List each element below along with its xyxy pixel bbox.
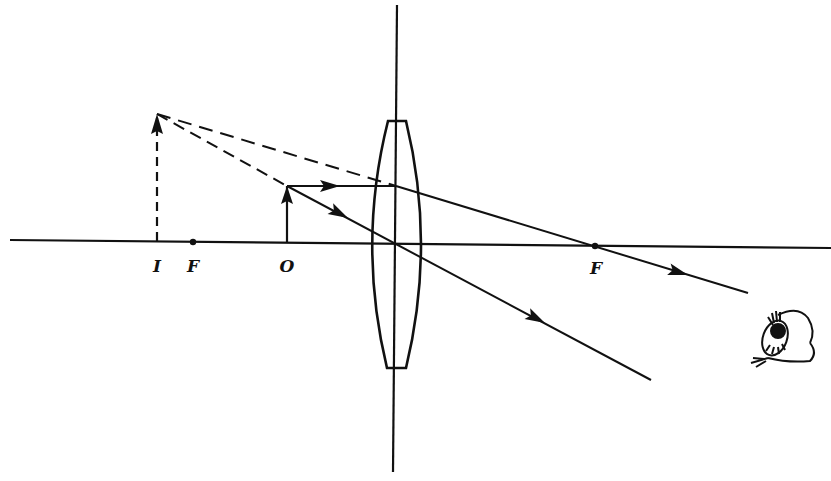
eye-icon [751, 311, 814, 367]
virtual-ray-extension-center [157, 114, 287, 186]
label-object: O [280, 258, 295, 275]
label-focal-right: F [590, 260, 602, 277]
virtual-ray-extension-parallel [157, 114, 396, 186]
arrowhead-ray-center-1 [328, 203, 351, 223]
arrowhead-ray-center-2 [525, 308, 548, 328]
focal-point-left [190, 239, 196, 245]
ray-parallel-refracted [396, 186, 748, 293]
lens-plane-line [393, 5, 397, 472]
arrowhead-ray-refracted [667, 263, 690, 280]
label-focal-left: F [187, 258, 199, 275]
label-image: I [153, 258, 161, 275]
ray-diagram [0, 0, 831, 481]
